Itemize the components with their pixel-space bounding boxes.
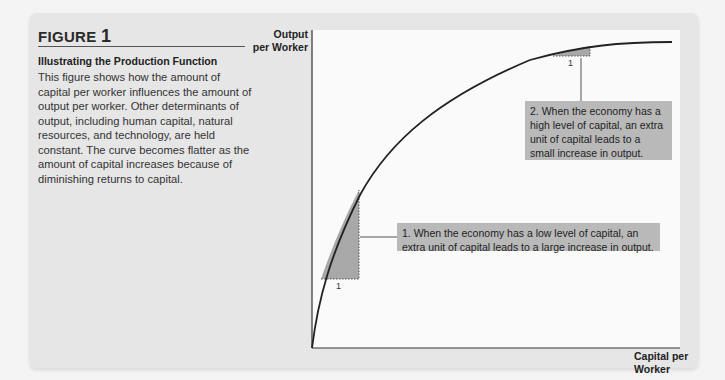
callout-low-capital: 1. When the economy has a low level of c… <box>397 223 660 251</box>
x-axis-label-line2: Worker <box>634 363 704 376</box>
x-axis-label-line1: Capital per <box>634 350 704 363</box>
production-curve <box>312 42 672 348</box>
high-capital-run-label: 1 <box>568 58 573 68</box>
low-capital-shade <box>321 190 359 279</box>
x-axis-label: Capital per Worker <box>634 350 704 376</box>
low-capital-run-label: 1 <box>336 281 341 291</box>
production-function-chart <box>0 0 725 380</box>
callout-high-capital: 2. When the economy has a high level of … <box>525 101 672 160</box>
